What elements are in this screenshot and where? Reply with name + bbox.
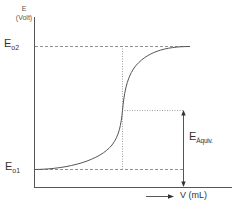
y-axis-title: E (Volt): [10, 4, 38, 22]
titration-curve-diagram: E (Volt) Eo2 Eo1 EÄquiv. V (mL): [0, 0, 235, 214]
upper-level-label: Eo2: [4, 38, 19, 49]
arrow-down-head-icon: [181, 182, 185, 188]
y-axis-symbol: E: [10, 4, 38, 13]
equivalence-potential-label: EÄquiv.: [189, 131, 213, 142]
x-axis-label: V (mL): [180, 191, 207, 200]
volume-direction-arrow-head-icon: [168, 194, 174, 198]
arrow-up-head-icon: [181, 110, 185, 116]
upper-level-subscript: o2: [11, 44, 19, 51]
lower-level-label: Eo1: [5, 161, 20, 172]
diagram-canvas: [0, 0, 235, 214]
lower-level-subscript: o1: [12, 167, 20, 174]
y-axis-unit: (Volt): [10, 13, 38, 22]
equivalence-subscript: Äquiv.: [196, 137, 212, 144]
titration-curve: [35, 47, 190, 170]
